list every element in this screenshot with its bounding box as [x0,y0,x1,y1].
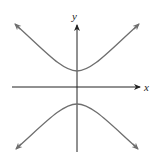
arrow-upper-left-icon [15,24,20,29]
x-axis-label: x [143,81,149,93]
arrow-lower-left-icon [16,144,21,149]
arrow-lower-right-icon [133,144,138,149]
hyperbola-graph: x y [0,0,157,163]
y-axis-label: y [71,10,77,22]
arrow-upper-right-icon [134,24,139,29]
